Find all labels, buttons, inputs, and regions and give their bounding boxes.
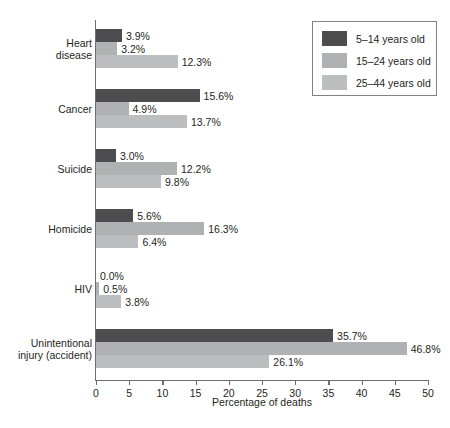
- legend-item[interactable]: 5–14 years old: [322, 31, 425, 46]
- bar-value-label: 13.7%: [187, 116, 221, 128]
- bar-value-label: 3.0%: [116, 150, 144, 162]
- bar-value-label: 5.6%: [133, 210, 161, 222]
- x-axis-tick: [129, 380, 130, 385]
- bar[interactable]: [96, 355, 269, 368]
- bar-value-label: 3.2%: [117, 43, 145, 55]
- bar-value-label: 0.0%: [96, 270, 124, 282]
- x-axis-tick: [96, 380, 97, 385]
- bar-group: 35.7%46.8%26.1%: [96, 329, 428, 368]
- legend-label: 25–44 years old: [356, 77, 431, 89]
- category-label-line: Heart: [4, 37, 92, 49]
- legend: 5–14 years old15–24 years old25–44 years…: [312, 21, 437, 96]
- x-axis-tick: [362, 380, 363, 385]
- bar[interactable]: [96, 55, 178, 68]
- legend-label: 15–24 years old: [356, 55, 431, 67]
- category-label-line: Suicide: [4, 163, 92, 175]
- bar-value-label: 46.8%: [407, 343, 441, 355]
- category-label: HIV: [4, 283, 92, 295]
- bar-value-label: 16.3%: [204, 223, 238, 235]
- bar-value-label: 3.8%: [121, 296, 149, 308]
- bar-value-label: 35.7%: [333, 330, 367, 342]
- category-label-line: disease: [4, 49, 92, 61]
- x-axis-title: Percentage of deaths: [96, 396, 428, 408]
- bar[interactable]: [96, 102, 129, 115]
- bar-value-label: 4.9%: [129, 103, 157, 115]
- bar-value-label: 9.8%: [161, 176, 189, 188]
- category-label: Unintentionalinjury (accident): [4, 337, 92, 361]
- bar-value-label: 15.6%: [200, 90, 234, 102]
- bar-value-label: 26.1%: [269, 356, 303, 368]
- category-label-line: Homicide: [4, 223, 92, 235]
- bar[interactable]: [96, 329, 333, 342]
- category-label: Suicide: [4, 163, 92, 175]
- legend-swatch: [322, 31, 347, 46]
- x-axis-tick: [229, 380, 230, 385]
- x-axis-tick: [395, 380, 396, 385]
- x-axis-tick: [262, 380, 263, 385]
- category-labels: HeartdiseaseCancerSuicideHomicideHIVUnin…: [0, 20, 92, 380]
- bar-value-label: 6.4%: [138, 236, 166, 248]
- bar[interactable]: [96, 149, 116, 162]
- bar[interactable]: [96, 42, 117, 55]
- legend-swatch: [322, 53, 347, 68]
- bar-value-label: 3.9%: [122, 30, 150, 42]
- bar[interactable]: [96, 209, 133, 222]
- legend-label: 5–14 years old: [356, 33, 425, 45]
- bar-group: 3.0%12.2%9.8%: [96, 149, 428, 188]
- bar-group: 5.6%16.3%6.4%: [96, 209, 428, 248]
- bar[interactable]: [96, 295, 121, 308]
- category-label-line: injury (accident): [4, 349, 92, 361]
- category-label-line: Unintentional: [4, 337, 92, 349]
- bar[interactable]: [96, 235, 138, 248]
- bar-value-label: 12.2%: [177, 163, 211, 175]
- bar[interactable]: [96, 115, 187, 128]
- bar[interactable]: [96, 222, 204, 235]
- x-axis-tick: [295, 380, 296, 385]
- bar[interactable]: [96, 175, 161, 188]
- category-label: Heartdisease: [4, 37, 92, 61]
- bar-value-label: 0.5%: [99, 283, 127, 295]
- category-label-line: Cancer: [4, 103, 92, 115]
- y-axis-line: [95, 20, 96, 380]
- bar[interactable]: [96, 89, 200, 102]
- category-label: Cancer: [4, 103, 92, 115]
- category-label: Homicide: [4, 223, 92, 235]
- x-axis-tick: [328, 380, 329, 385]
- legend-item[interactable]: 25–44 years old: [322, 75, 431, 90]
- bar-chart: HeartdiseaseCancerSuicideHomicideHIVUnin…: [0, 0, 450, 428]
- bar[interactable]: [96, 162, 177, 175]
- bar-group: 0.0%0.5%3.8%: [96, 269, 428, 308]
- bar[interactable]: [96, 342, 407, 355]
- x-axis-tick: [162, 380, 163, 385]
- category-label-line: HIV: [4, 283, 92, 295]
- x-axis-tick: [196, 380, 197, 385]
- legend-swatch: [322, 75, 347, 90]
- x-axis-tick: [428, 380, 429, 385]
- bar-value-label: 12.3%: [178, 56, 212, 68]
- legend-item[interactable]: 15–24 years old: [322, 53, 431, 68]
- bar[interactable]: [96, 29, 122, 42]
